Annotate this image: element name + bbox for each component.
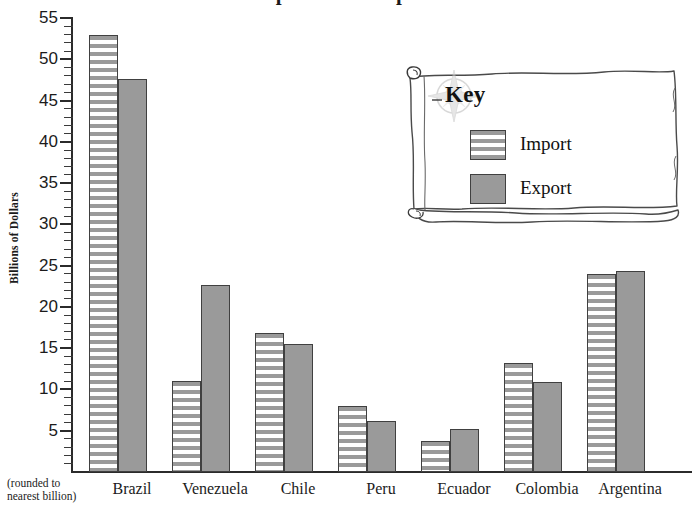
- bar-colombia-import: [504, 363, 533, 472]
- bar-chile-import: [255, 333, 284, 472]
- bar-peru-export: [367, 421, 396, 472]
- bar-argentina-export: [616, 271, 645, 472]
- bar-colombia-export: [533, 382, 562, 472]
- legend-key: Key ImportExport: [396, 60, 686, 225]
- bar-peru-import: [338, 406, 367, 472]
- legend-title: Key: [445, 82, 486, 108]
- x-category-label-argentina: Argentina: [566, 480, 694, 498]
- legend-swatch-import: [470, 130, 506, 160]
- bar-ecuador-import: [421, 441, 450, 472]
- bar-brazil-export: [118, 79, 147, 472]
- bar-ecuador-export: [450, 429, 479, 472]
- bar-argentina-import: [587, 274, 616, 472]
- bar-venezuela-import: [172, 381, 201, 472]
- legend-label-export: Export: [520, 177, 572, 199]
- bar-venezuela-export: [201, 285, 230, 472]
- legend-label-import: Import: [520, 133, 572, 155]
- chart-page: Imports and Exports 55504540353025201510…: [0, 0, 694, 514]
- bar-brazil-import: [89, 35, 118, 472]
- bar-chile-export: [284, 344, 313, 472]
- legend-swatch-export: [470, 174, 506, 204]
